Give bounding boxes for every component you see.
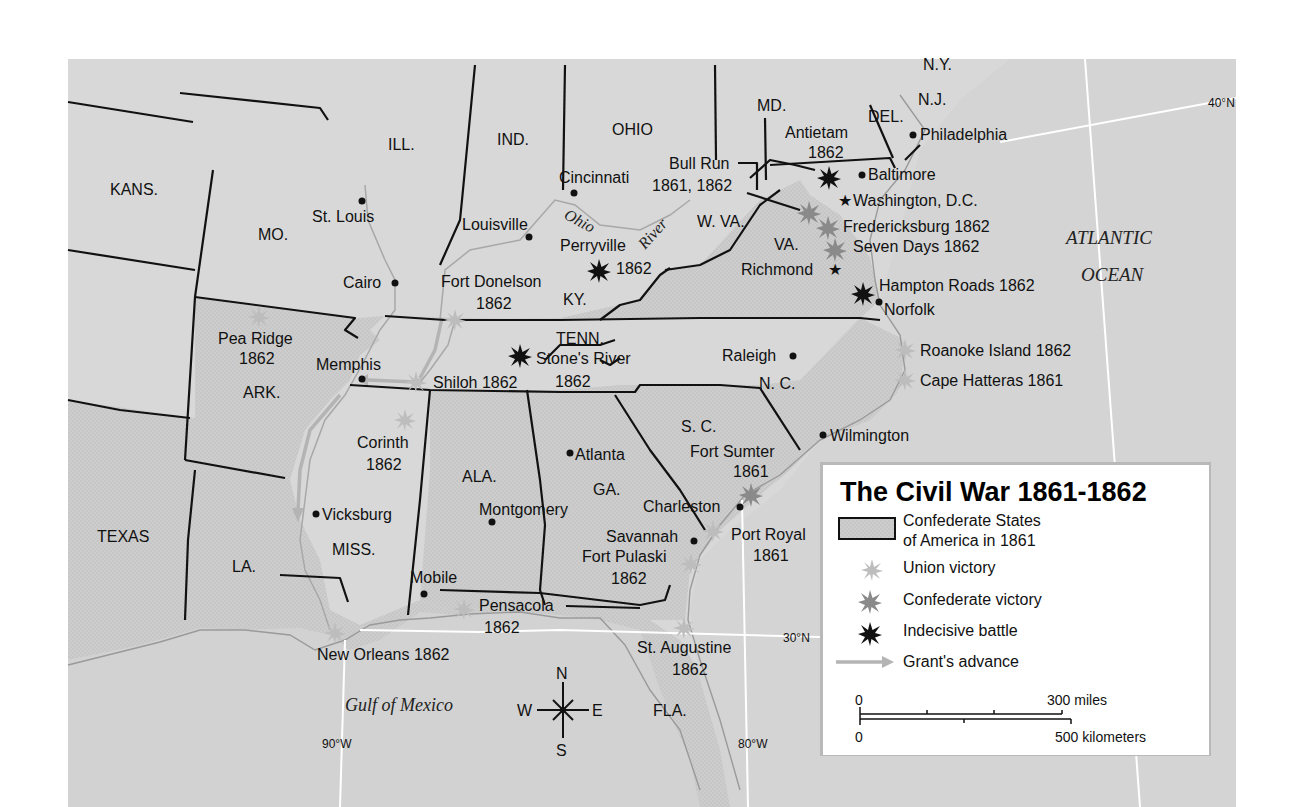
state-ill: ILL. xyxy=(388,136,415,153)
city-memphis: Memphis xyxy=(316,356,381,373)
scale-km-label: 500 kilometers xyxy=(1055,729,1146,745)
city-montgomery: Montgomery xyxy=(479,501,568,518)
city-wilmington: Wilmington xyxy=(830,427,909,444)
state-la: LA. xyxy=(232,558,256,575)
battle-antietam: Antietam xyxy=(785,124,848,141)
state-md: MD. xyxy=(757,97,786,114)
state-del: DEL. xyxy=(868,108,904,125)
legend-confederate-victory: Confederate victory xyxy=(903,591,1042,608)
coord-40n: 40°N xyxy=(1208,96,1235,110)
compass-n: N xyxy=(556,665,568,682)
city-vicksburg: Vicksburg xyxy=(322,506,392,523)
city-atlanta: Atlanta xyxy=(575,446,625,463)
legend-indecisive: Indecisive battle xyxy=(903,622,1018,639)
battle-pensacola-year: 1862 xyxy=(484,619,520,636)
state-kans: KANS. xyxy=(110,181,158,198)
state-ohio: OHIO xyxy=(612,121,653,138)
state-fla: FLA. xyxy=(653,702,687,719)
battle-corinth: Corinth xyxy=(357,434,409,451)
city-charleston: Charleston xyxy=(643,498,720,515)
battle-hatteras: Cape Hatteras 1861 xyxy=(920,372,1063,389)
gulf-of-mexico-label: Gulf of Mexico xyxy=(345,695,453,715)
battle-stones-river: Stone's River xyxy=(536,350,631,367)
city-washington: Washington, D.C. xyxy=(853,192,978,209)
battle-hampton-roads: Hampton Roads 1862 xyxy=(879,277,1035,294)
battle-bull-run-year: 1861, 1862 xyxy=(652,177,732,194)
state-ala: ALA. xyxy=(462,468,497,485)
compass-e: E xyxy=(592,702,603,719)
city-mobile: Mobile xyxy=(410,569,457,586)
coord-30n: 30°N xyxy=(783,631,810,645)
legend-confederate-2: of America in 1861 xyxy=(903,532,1036,549)
scale-km-zero: 0 xyxy=(855,729,863,745)
battle-bull-run: Bull Run xyxy=(669,155,729,172)
coord-90w: 90°W xyxy=(322,737,352,751)
battle-fort-pulaski: Fort Pulaski xyxy=(582,548,666,565)
battle-port-royal: Port Royal xyxy=(731,526,806,543)
battle-new-orleans: New Orleans 1862 xyxy=(317,646,450,663)
legend-confederate-1: Confederate States xyxy=(903,512,1041,529)
city-raleigh: Raleigh xyxy=(722,347,776,364)
legend-grants-advance: Grant's advance xyxy=(903,653,1019,670)
legend-title: The Civil War 1861-1862 xyxy=(840,477,1147,507)
state-nj: N.J. xyxy=(918,91,946,108)
state-mo: MO. xyxy=(258,226,288,243)
scale-miles-label: 300 miles xyxy=(1047,692,1107,708)
legend: The Civil War 1861-1862 Confederate Stat… xyxy=(820,462,1211,756)
state-sc: S. C. xyxy=(681,418,717,435)
scale-miles-zero: 0 xyxy=(855,692,863,708)
battle-pea-ridge-year: 1862 xyxy=(239,350,275,367)
battle-fort-sumter-year: 1861 xyxy=(733,463,769,480)
battle-stones-river-year: 1862 xyxy=(555,373,591,390)
battle-fort-donelson-year: 1862 xyxy=(476,295,512,312)
city-baltimore: Baltimore xyxy=(868,166,936,183)
battle-fort-sumter: Fort Sumter xyxy=(690,443,775,460)
battle-perryville-year: 1862 xyxy=(616,260,652,277)
city-cincinnati: Cincinnati xyxy=(559,169,629,186)
battle-pensacola: Pensacola xyxy=(479,597,554,614)
battle-fredericksburg: Fredericksburg 1862 xyxy=(843,218,990,235)
state-nc: N. C. xyxy=(759,375,795,392)
legend-union-victory: Union victory xyxy=(903,559,995,576)
state-ky: KY. xyxy=(563,291,587,308)
battle-seven-days: Seven Days 1862 xyxy=(853,238,979,255)
city-cairo: Cairo xyxy=(343,274,381,291)
city-st-louis: St. Louis xyxy=(312,208,374,225)
confederate-area-swatch xyxy=(839,518,895,539)
city-norfolk: Norfolk xyxy=(884,301,936,318)
battle-port-royal-year: 1861 xyxy=(753,547,789,564)
state-va: VA. xyxy=(774,236,799,253)
state-ark: ARK. xyxy=(243,384,280,401)
battle-st-augustine: St. Augustine xyxy=(637,639,731,656)
city-philadelphia: Philadelphia xyxy=(920,126,1007,143)
compass-w: W xyxy=(517,702,533,719)
compass-s: S xyxy=(556,742,567,759)
battle-roanoke: Roanoke Island 1862 xyxy=(920,342,1071,359)
atlantic-label-2: OCEAN xyxy=(1081,264,1145,285)
atlantic-label-1: ATLANTIC xyxy=(1064,227,1152,248)
battle-perryville: Perryville xyxy=(560,237,626,254)
richmond-star-icon: ★ xyxy=(828,261,842,278)
state-wva: W. VA. xyxy=(697,213,745,230)
state-ny: N.Y. xyxy=(923,56,952,73)
city-louisville: Louisville xyxy=(462,216,528,233)
battle-st-augustine-year: 1862 xyxy=(672,661,708,678)
battle-pea-ridge: Pea Ridge xyxy=(218,330,293,347)
state-miss: MISS. xyxy=(332,541,376,558)
battle-shiloh: Shiloh 1862 xyxy=(433,374,518,391)
coord-80w: 80°W xyxy=(738,737,768,751)
washington-star-icon: ★ xyxy=(838,192,852,209)
battle-corinth-year: 1862 xyxy=(366,456,402,473)
battle-fort-pulaski-year: 1862 xyxy=(611,570,647,587)
state-ga: GA. xyxy=(593,481,621,498)
state-texas: TEXAS xyxy=(97,528,149,545)
city-savannah: Savannah xyxy=(606,528,678,545)
civil-war-map: KANS. MO. ILL. IND. OHIO MD. DEL. N.J. N… xyxy=(0,0,1292,807)
state-ind: IND. xyxy=(497,131,529,148)
state-tenn: TENN. xyxy=(556,330,604,347)
battle-antietam-year: 1862 xyxy=(808,144,844,161)
city-richmond: Richmond xyxy=(741,261,813,278)
battle-fort-donelson: Fort Donelson xyxy=(441,273,542,290)
